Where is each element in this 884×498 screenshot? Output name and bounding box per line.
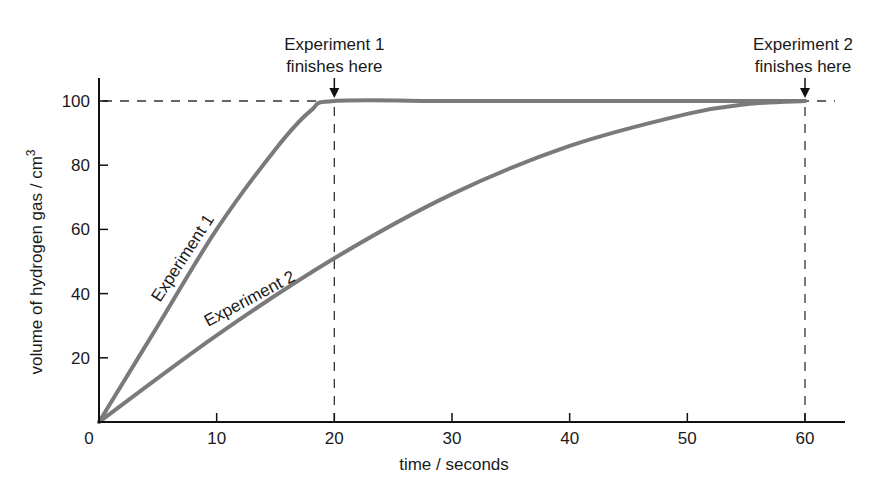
series-line-experiment-1 [99,100,805,422]
annotation-line-1: Experiment 2 [753,35,853,54]
series-line-experiment-2 [99,101,805,422]
chart: 0102030405060 20406080100 time / seconds… [0,0,884,498]
data-series [99,100,805,422]
annotation-line-2: finishes here [755,57,851,76]
x-tick-label: 50 [678,429,697,448]
x-ticks: 0102030405060 [84,413,814,448]
y-tick-label: 100 [62,92,90,111]
y-tick-label: 60 [71,220,90,239]
x-axis-title: time / seconds [399,455,509,474]
y-tick-label: 40 [71,285,90,304]
curve-label-experiment-1: Experiment 1 [147,211,217,305]
x-tick-label: 30 [443,429,462,448]
arrow-head-icon [800,88,810,98]
y-ticks: 20406080100 [62,92,108,368]
y-axis-title: volume of hydrogen gas / cm3 [24,149,46,374]
annotation-experiment-1-finish: Experiment 1finishes here [284,35,384,98]
annotations: Experiment 1finishes hereExperiment 2fin… [284,35,853,98]
reference-lines [103,101,835,422]
x-tick-label: 40 [560,429,579,448]
x-tick-label: 0 [84,429,93,448]
x-tick-label: 10 [207,429,226,448]
annotation-line-2: finishes here [286,57,382,76]
annotation-experiment-2-finish: Experiment 2finishes here [753,35,853,98]
y-tick-label: 80 [71,156,90,175]
curve-label-experiment-2: Experiment 2 [201,267,298,331]
arrow-head-icon [329,88,339,98]
y-tick-label: 20 [71,349,90,368]
axes [98,78,845,423]
annotation-line-1: Experiment 1 [284,35,384,54]
x-tick-label: 20 [325,429,344,448]
x-tick-label: 60 [796,429,815,448]
